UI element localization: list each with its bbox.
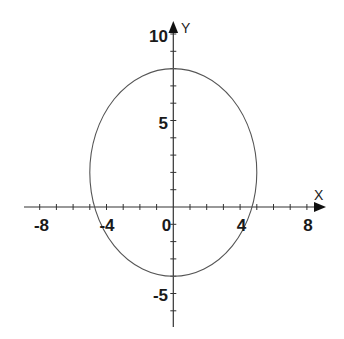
x-axis-name: X (314, 187, 324, 203)
y-tick-label: 5 (159, 114, 168, 133)
ellipse-chart: X Y -8 -4 0 4 8 10 5 -5 (0, 0, 344, 339)
x-tick-label: -4 (99, 216, 115, 235)
origin-label: 0 (162, 216, 171, 235)
y-axis-name: Y (181, 20, 191, 36)
y-tick-label: -5 (153, 286, 168, 305)
x-tick-label: 8 (303, 216, 312, 235)
x-axis-arrow-icon (314, 202, 326, 212)
x-axis (24, 202, 326, 212)
y-axis (169, 21, 179, 327)
y-tick-label: 10 (149, 27, 168, 46)
x-tick-label: -8 (34, 216, 49, 235)
y-axis-arrow-icon (169, 21, 179, 33)
x-tick-label: 4 (237, 216, 247, 235)
